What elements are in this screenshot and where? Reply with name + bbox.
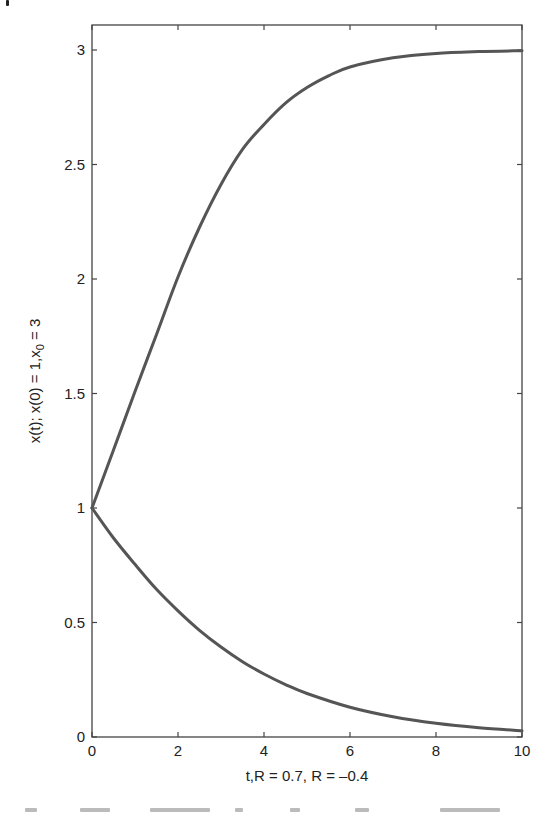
plot-frame	[92, 25, 522, 737]
cropped-glyph	[25, 808, 37, 812]
y-tick-label: 1	[77, 499, 85, 516]
series-lines	[92, 51, 522, 731]
plot-area	[92, 25, 522, 737]
cropped-glyph	[235, 808, 243, 812]
x-tick-label: 2	[174, 742, 182, 759]
y-tick-label: 0	[77, 728, 85, 745]
y-tick-label: 2.5	[64, 156, 85, 173]
cropped-caption-bottom	[0, 808, 554, 814]
line-chart: 024681000.511.522.53 t,R = 0.7, R = –0.4…	[0, 0, 554, 814]
tick-labels: 024681000.511.522.53	[64, 41, 530, 759]
x-tick-label: 10	[514, 742, 531, 759]
y-tick-label: 1.5	[64, 385, 85, 402]
cropped-glyph	[355, 808, 369, 812]
y-label-suffix: = 3	[26, 319, 43, 344]
y-label-main: x(t); x(0) = 1,x	[26, 350, 43, 443]
axis-ticks	[92, 25, 522, 737]
y-tick-label: 0.5	[64, 614, 85, 631]
y-tick-label: 3	[77, 41, 85, 58]
x-tick-label: 4	[260, 742, 268, 759]
cropped-glyph	[80, 808, 110, 812]
x-tick-label: 6	[346, 742, 354, 759]
series-line	[92, 51, 522, 508]
cropped-glyph	[290, 808, 300, 812]
y-axis-label: x(t); x(0) = 1,x0 = 3	[26, 319, 46, 444]
x-tick-label: 8	[432, 742, 440, 759]
series-line	[92, 508, 522, 731]
y-tick-label: 2	[77, 270, 85, 287]
cropped-glyph	[440, 808, 500, 812]
cropped-glyph	[150, 808, 210, 812]
x-tick-label: 0	[88, 742, 96, 759]
x-axis-label: t,R = 0.7, R = –0.4	[246, 767, 369, 784]
